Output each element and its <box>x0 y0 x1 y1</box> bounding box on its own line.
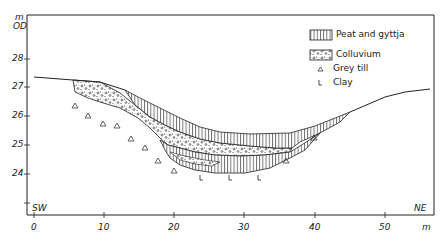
y-tick-label-24: 24 <box>12 168 23 178</box>
y-tick-label-28: 28 <box>12 53 23 63</box>
clay-l-icon <box>200 175 203 180</box>
till-triangle-icon <box>128 136 134 141</box>
y-tick-label-27: 27 <box>12 81 23 91</box>
legend-peat-swatch <box>310 30 332 40</box>
till-triangle-icon <box>142 145 148 150</box>
till-triangle-icon <box>155 158 161 163</box>
y-axis-unit-od: OD <box>13 21 27 31</box>
legend-colluvium-swatch <box>310 50 332 60</box>
clay-markers <box>200 175 261 180</box>
orientation-ne: NE <box>414 203 426 213</box>
clay-l-icon <box>229 175 232 180</box>
stratigraphic-section-diagram: m OD 28 27 26 25 24 0 10 20 30 40 50 m S… <box>0 0 442 240</box>
till-triangle-icon <box>85 113 91 118</box>
x-tick-label-30: 30 <box>238 222 249 232</box>
x-axis-unit: m <box>422 222 431 232</box>
clay-l-icon <box>258 175 261 180</box>
legend-label-grey-till: Grey till <box>333 63 368 73</box>
legend-label-colluvium: Colluvium <box>336 49 381 59</box>
y-tick-label-25: 25 <box>12 139 23 149</box>
legend-till-icon <box>318 67 323 71</box>
x-tick-label-10: 10 <box>98 222 109 232</box>
legend-clay-icon <box>319 80 322 85</box>
till-triangle-icon <box>114 123 120 128</box>
x-tick-label-40: 40 <box>309 222 320 232</box>
orientation-sw: SW <box>32 203 47 213</box>
plot-frame <box>27 15 434 215</box>
y-tick-label-26: 26 <box>12 110 23 120</box>
till-triangle-icon <box>171 168 177 173</box>
x-tick-label-20: 20 <box>168 222 179 232</box>
x-tick-label-0: 0 <box>31 222 37 232</box>
legend-label-peat: Peat and gyttja <box>336 29 404 39</box>
till-triangle-icon <box>100 121 106 126</box>
till-triangle-icon <box>72 103 78 108</box>
x-tick-label-50: 50 <box>379 222 390 232</box>
legend-label-clay: Clay <box>333 77 353 87</box>
legend-symbols <box>310 30 332 85</box>
